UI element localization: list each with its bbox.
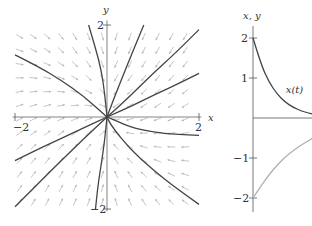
value-axis-label: x, y — [243, 10, 261, 21]
y-tick-label: 2 — [97, 19, 104, 32]
time-series-chart: 21−1−2 x(t) x, y — [233, 10, 312, 212]
field-arrowhead — [140, 132, 142, 134]
y-axis-label: y — [102, 4, 109, 15]
solution-curve — [107, 117, 199, 135]
field-arrowhead — [90, 105, 92, 107]
field-arrowhead — [167, 146, 169, 148]
y-tick-label: −1 — [233, 152, 249, 165]
field-arrowhead — [181, 146, 183, 148]
y-tick-label: −2 — [90, 203, 106, 216]
y-tick-label: 1 — [241, 72, 248, 85]
y-tick-label: 2 — [241, 32, 248, 45]
x-tick-label: 2 — [195, 121, 202, 134]
x-axis-label: x — [208, 112, 214, 123]
field-arrowhead — [35, 90, 37, 92]
field-arrowhead — [21, 77, 23, 79]
field-arrowhead — [63, 91, 65, 93]
x-tick-label: −2 — [13, 121, 29, 134]
solution-curve — [107, 30, 199, 117]
y-tick-label: −2 — [233, 192, 249, 205]
series-label: x(t) — [286, 84, 304, 95]
figure: −222−2 x y 21−1−2 x(t) x, y — [0, 0, 312, 226]
series-line-yt — [253, 138, 312, 198]
solution-curve — [96, 117, 108, 209]
field-arrowhead — [49, 90, 51, 92]
field-arrowhead — [35, 77, 37, 79]
series-line-xt — [253, 38, 312, 114]
field-arrowhead — [77, 104, 79, 106]
phase-portrait: −222−2 x y — [13, 4, 214, 216]
